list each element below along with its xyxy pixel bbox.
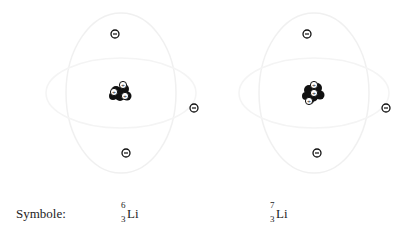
nucleus: + + + (109, 81, 132, 101)
svg-text:+: + (112, 89, 116, 97)
symbol-label: Symbole: (16, 206, 66, 222)
electron-icon (382, 104, 390, 112)
svg-text:+: + (312, 90, 316, 98)
element-symbol: Li (127, 206, 139, 222)
electron-icon (190, 104, 198, 112)
mass-number: 7 (270, 200, 275, 210)
electron-icon (313, 149, 321, 157)
atom-diagram: + + + + + + (0, 0, 414, 190)
atomic-number: 3 (121, 214, 126, 224)
electron-icon (122, 149, 130, 157)
mass-number: 6 (121, 200, 126, 210)
atomic-number: 3 (270, 214, 275, 224)
svg-text:+: + (307, 98, 311, 106)
atom-li6: + + + (46, 13, 198, 173)
electron-icon (303, 30, 311, 38)
atom-li7: + + + (239, 13, 390, 173)
svg-text:+: + (312, 82, 316, 90)
nucleus: + + + (302, 81, 325, 105)
svg-text:+: + (121, 82, 125, 90)
electron-icon (111, 30, 119, 38)
proton-icon: + (305, 97, 312, 105)
element-symbol: Li (276, 206, 288, 222)
svg-text:+: + (123, 93, 127, 101)
